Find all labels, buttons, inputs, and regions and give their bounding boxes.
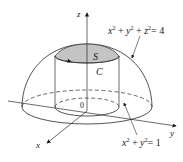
sphere-pointer (132, 36, 140, 58)
sphere-equation: x2 + y2 + z2= 4 (107, 25, 164, 36)
y-axis-label: y (169, 128, 174, 138)
x-axis (47, 111, 87, 143)
surface-label: S (93, 51, 98, 62)
curve-label: C (96, 66, 103, 77)
z-axis-label: z (76, 9, 81, 19)
hemisphere-diagram: z y x 0 S C x2 + y2 + z2= 4 x2 + y2= 1 (0, 0, 183, 162)
cylinder-pointer (124, 103, 137, 135)
y-axis (8, 101, 176, 126)
cylinder-equation: x2 + y2= 1 (121, 137, 161, 148)
x-axis-label: x (35, 140, 40, 150)
origin-label: 0 (80, 101, 84, 110)
